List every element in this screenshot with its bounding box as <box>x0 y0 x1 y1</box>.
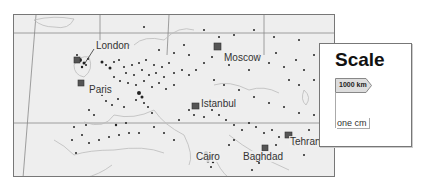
scale-legend: Scale 1000 km one cm <box>319 43 412 147</box>
city-label-baghdad[interactable]: Baghdad <box>242 151 284 162</box>
scale-tick-line <box>335 93 336 128</box>
map-frame[interactable]: London Paris Moscow Istanbul Cairo Baghd… <box>13 14 335 177</box>
graticule <box>14 15 335 177</box>
scale-title: Scale <box>335 49 385 71</box>
city-label-tehran[interactable]: Tehran <box>289 136 322 147</box>
map-canvas <box>14 15 335 177</box>
scale-unit-label: one cm <box>337 118 370 129</box>
city-label-london[interactable]: London <box>95 40 130 51</box>
city-label-istanbul[interactable]: Istanbul <box>200 98 237 109</box>
city-label-cairo[interactable]: Cairo <box>195 151 221 162</box>
city-label-paris[interactable]: Paris <box>88 84 113 95</box>
city-label-moscow[interactable]: Moscow <box>223 52 262 63</box>
london-leader-line <box>85 49 94 63</box>
scale-distance-label: 1000 km <box>339 81 367 88</box>
